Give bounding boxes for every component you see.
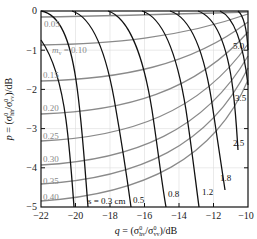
x-tick-label: −14 [171, 210, 187, 221]
x-tick-label: −12 [206, 210, 222, 221]
s-label: 0.8 [168, 189, 180, 199]
s-label: 2.5 [233, 138, 245, 148]
mv-label: 0.15 [43, 70, 59, 80]
s-label: 1.8 [220, 173, 232, 183]
s-curve-0.8 [108, 11, 166, 207]
x-tick-label: −18 [102, 210, 118, 221]
x-tick-label: −16 [137, 210, 153, 221]
mv-label-0.10: mv = 0.10 [52, 45, 87, 56]
mv-label: 0.05 [44, 19, 60, 29]
mv-label: 0.35 [43, 176, 59, 186]
s-label: 3.5 [235, 93, 247, 103]
x-axis-title: q = (σ0hv/σ0vv)/dB [115, 225, 178, 237]
y-tick-label: −5 [26, 201, 37, 212]
y-axis-title: p = (σ0hh/σ0vv)/dB [3, 78, 15, 142]
y-tick-label: −3 [26, 123, 37, 134]
s-label: 1.2 [202, 187, 213, 197]
y-tick-label: −1 [26, 45, 37, 56]
y-tick-label: −4 [26, 162, 37, 173]
x-tick-labels: −22 −20 −18 −16 −14 −12 −10 [33, 210, 254, 221]
mv-label: 0.40 [43, 192, 59, 202]
mv-label: 0.30 [43, 154, 59, 164]
contour-chart: −22 −20 −18 −16 −14 −12 −10 0 −1 −2 −3 −… [0, 0, 257, 239]
mv-label: 0.20 [43, 103, 59, 113]
s-label: 0.5 [133, 195, 145, 205]
mv-label: 0.25 [43, 131, 59, 141]
s-label-0.3: s = 0.3 cm [88, 196, 126, 206]
y-tick-label: −2 [26, 84, 37, 95]
y-tick-labels: 0 −1 −2 −3 −4 −5 [26, 5, 37, 212]
y-tick-label: 0 [32, 5, 37, 16]
x-tick-label: −20 [68, 210, 84, 221]
s-label: 5.0 [233, 41, 245, 51]
x-tick-label: −10 [238, 210, 254, 221]
